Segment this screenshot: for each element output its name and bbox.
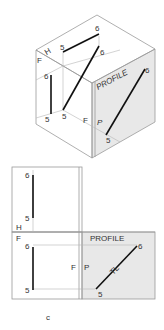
label-iso-F-bottom: F [83, 116, 88, 125]
label-top-5: 5 [60, 43, 65, 52]
label-space-5: 5 [62, 112, 67, 121]
ortho-label-top-5: 5 [25, 214, 30, 223]
ortho-label-profile-6: 6 [138, 242, 143, 251]
label-profile-6: 6 [145, 66, 150, 75]
ortho-label-profile-title: PROFILE [90, 234, 124, 243]
label-profile-5: 5 [106, 136, 111, 145]
label-front-6: 6 [44, 72, 49, 81]
orthographic-view: 6 5 6 5 6 5 H F F P PROFILE TL c [12, 167, 155, 322]
descriptive-geometry-figure: 6 5 6 5 6 5 6 5 H F F P PROFILE 6 5 6 [0, 0, 164, 330]
ortho-label-H: H [16, 223, 22, 232]
ortho-label-F-fold: F [71, 263, 76, 272]
label-iso-P: P [97, 118, 103, 127]
ortho-label-front-6: 6 [25, 242, 30, 251]
ortho-label-front-5: 5 [25, 286, 30, 295]
label-iso-F-top: F [37, 56, 42, 65]
horizontal-panel [12, 167, 82, 232]
figure-caption: c [46, 313, 50, 322]
ortho-label-profile-5: 5 [98, 290, 103, 299]
ortho-label-F: F [16, 234, 21, 243]
label-top-6: 6 [95, 24, 100, 33]
label-space-6: 6 [100, 48, 105, 57]
ortho-label-top-6: 6 [25, 171, 30, 180]
isometric-view: 6 5 6 5 6 5 6 5 H F F P PROFILE [36, 15, 155, 158]
line-56-horizontal [63, 34, 99, 52]
ortho-label-P-fold: P [84, 263, 89, 272]
frontal-plane [36, 50, 92, 158]
label-front-5: 5 [45, 115, 50, 124]
